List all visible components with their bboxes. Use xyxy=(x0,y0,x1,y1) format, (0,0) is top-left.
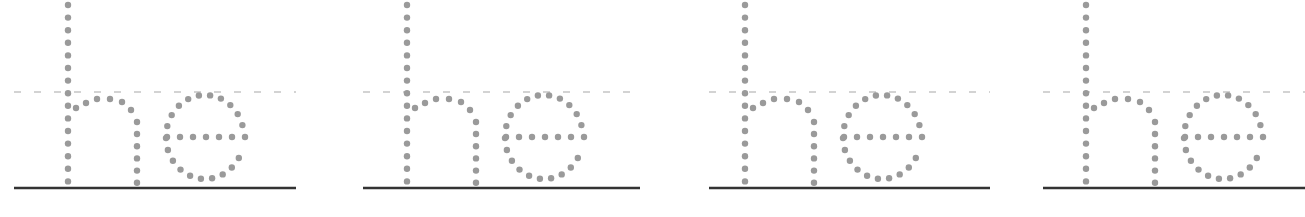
trace-dot xyxy=(65,128,71,134)
trace-dot xyxy=(404,14,410,20)
trace-dot xyxy=(134,155,140,161)
trace-dot xyxy=(854,134,860,140)
trace-dot xyxy=(229,134,235,140)
trace-dot xyxy=(207,92,213,98)
trace-dot xyxy=(811,119,817,125)
trace-dot xyxy=(742,27,748,33)
trace-dot xyxy=(811,167,817,173)
trace-dot xyxy=(750,105,756,111)
trace-dot xyxy=(912,111,918,117)
trace-dot xyxy=(1182,123,1188,129)
trace-dot xyxy=(546,92,552,98)
trace-dot xyxy=(526,173,532,179)
trace-dot xyxy=(1214,92,1220,98)
trace-dot xyxy=(177,134,183,140)
trace-dot xyxy=(875,176,881,182)
trace-dot xyxy=(742,52,748,58)
trace-dot xyxy=(742,14,748,20)
trace-dot xyxy=(412,105,418,111)
trace-dot xyxy=(177,166,183,172)
trace-dot xyxy=(1225,92,1231,98)
trace-dot xyxy=(574,111,580,117)
trace-dot xyxy=(404,2,410,8)
trace-dot xyxy=(65,103,71,109)
trace-dot xyxy=(65,77,71,83)
trace-dot xyxy=(404,65,410,71)
trace-dot xyxy=(107,96,113,102)
trace-dot xyxy=(1137,99,1143,105)
trace-dot xyxy=(404,140,410,146)
trace-dot xyxy=(853,103,859,109)
trace-dot xyxy=(65,90,71,96)
trace-dot xyxy=(1227,175,1233,181)
trace-dot xyxy=(504,147,510,153)
trace-dot xyxy=(873,92,879,98)
trace-dot xyxy=(1083,166,1089,172)
trace-dot xyxy=(65,14,71,20)
trace-dot xyxy=(65,115,71,121)
trace-dot xyxy=(1083,115,1089,121)
trace-dot xyxy=(433,96,439,102)
trace-dot xyxy=(1091,105,1097,111)
trace-dot xyxy=(1152,180,1158,186)
trace-dot xyxy=(906,134,912,140)
trace-dot xyxy=(65,52,71,58)
trace-dot xyxy=(847,158,853,164)
trace-dot xyxy=(784,96,790,102)
trace-dot xyxy=(242,134,248,140)
trace-dot xyxy=(216,134,222,140)
trace-dot xyxy=(742,153,748,159)
letter-h-dotted xyxy=(404,2,479,186)
trace-dot xyxy=(165,147,171,153)
trace-dot xyxy=(196,92,202,98)
trace-dot xyxy=(220,171,226,177)
trace-dot xyxy=(805,107,811,113)
trace-dot xyxy=(65,178,71,184)
trace-dot xyxy=(535,92,541,98)
trace-dot xyxy=(128,107,134,113)
trace-dot xyxy=(862,96,868,102)
trace-dot xyxy=(566,102,572,108)
trace-dot xyxy=(473,119,479,125)
trace-dot xyxy=(1083,14,1089,20)
trace-dot xyxy=(1152,119,1158,125)
letter-e-dotted xyxy=(1181,92,1266,182)
trace-dot xyxy=(458,99,464,105)
trace-dot xyxy=(1195,166,1201,172)
trace-dot xyxy=(1253,111,1259,117)
trace-dot xyxy=(884,92,890,98)
trace-dot xyxy=(811,155,817,161)
trace-dot xyxy=(854,166,860,172)
trace-dot xyxy=(1083,128,1089,134)
trace-dot xyxy=(516,134,522,140)
trace-dot xyxy=(1238,171,1244,177)
trace-dot xyxy=(502,135,508,141)
trace-dot xyxy=(236,155,242,161)
tracing-panel-2 xyxy=(363,2,640,188)
trace-dot xyxy=(1221,134,1227,140)
letter-h-dotted xyxy=(742,2,817,186)
tracing-worksheet: Letter tracing practice xyxy=(0,0,1305,217)
trace-dot xyxy=(742,77,748,83)
trace-dot xyxy=(1083,178,1089,184)
trace-dot xyxy=(404,103,410,109)
trace-dot xyxy=(913,155,919,161)
trace-dot xyxy=(134,131,140,137)
trace-dot xyxy=(904,102,910,108)
trace-dot xyxy=(73,105,79,111)
trace-dot xyxy=(1083,153,1089,159)
trace-dot xyxy=(742,178,748,184)
letter-h-dotted xyxy=(1083,2,1158,186)
trace-dot xyxy=(537,176,543,182)
trace-dot xyxy=(467,107,473,113)
trace-dot xyxy=(1208,134,1214,140)
trace-dot xyxy=(796,99,802,105)
trace-dot xyxy=(895,95,901,101)
trace-dot xyxy=(1083,103,1089,109)
trace-dot xyxy=(542,134,548,140)
letter-e-dotted xyxy=(163,92,248,182)
trace-dot xyxy=(1083,90,1089,96)
tracing-panel-4 xyxy=(1043,2,1305,188)
trace-dot xyxy=(164,123,170,129)
trace-dot xyxy=(742,140,748,146)
